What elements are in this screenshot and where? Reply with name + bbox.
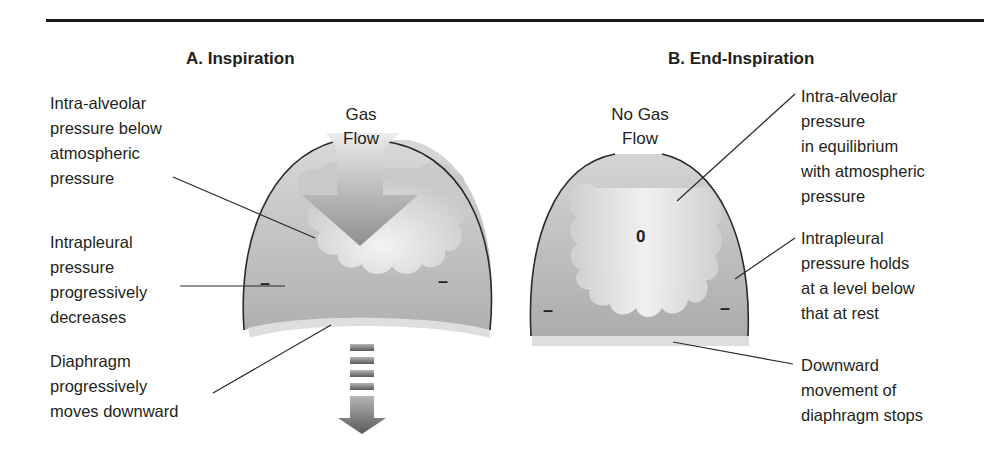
gas-flow-label: Gas Flow [327,103,395,151]
panel-b-diaphragm [532,336,749,346]
panel-a-pleural-sign-right: – [438,271,448,292]
panel-b-pleural-sign-left: – [543,300,553,321]
panel-b-intrapleural-label: Intrapleural pressure holds at a level b… [801,226,915,326]
alveolar-pressure-value: 0 [636,227,645,247]
panel-b-lung [569,184,722,317]
panel-a-title: A. Inspiration [186,49,295,69]
panel-b-intra-alveolar-label: Intra-alveolar pressure in equilibrium w… [801,84,925,209]
panel-b-pleural-sign-right: – [720,298,730,319]
no-gas-flow-label: No Gas Flow [590,103,690,151]
panel-a-intra-alveolar-label: Intra-alveolar pressure below atmospheri… [50,91,162,191]
panel-b-title: B. End-Inspiration [668,49,814,69]
respiration-diagram: A. Inspiration Intra-alveolar pressure b… [0,0,1003,476]
panel-b-diaphragm-label: Downward movement of diaphragm stops [801,353,923,428]
panel-a-pleural-sign-left: – [260,273,270,294]
panel-a-intrapleural-label: Intrapleural pressure progressively decr… [50,230,147,330]
diaphragm-down-arrow [338,344,386,434]
panel-a-diaphragm-label: Diaphragm progressively moves downward [50,349,178,424]
